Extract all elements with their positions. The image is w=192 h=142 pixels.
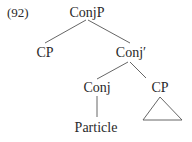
- triangle-icon: [143, 97, 182, 120]
- edge-conjbar-conj: [97, 62, 128, 79]
- edge-conjbar-cp: [130, 62, 146, 78]
- node-conj-bar: Conj′: [116, 45, 146, 61]
- node-cp-right: CP: [151, 80, 168, 96]
- node-conj: Conj: [83, 80, 110, 96]
- node-conjp: ConjP: [69, 5, 104, 21]
- edge-conjp-conjbar: [88, 20, 130, 43]
- edge-conjp-cp: [45, 20, 86, 43]
- node-cp-left: CP: [36, 45, 53, 61]
- node-particle: Particle: [75, 120, 118, 136]
